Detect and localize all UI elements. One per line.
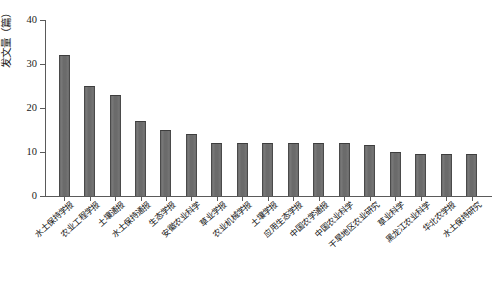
bar <box>288 143 299 196</box>
bar-fill <box>188 135 195 196</box>
bar <box>211 143 222 196</box>
x-tick-mark <box>64 197 65 201</box>
x-tick-mark <box>90 197 91 201</box>
bar-fill <box>392 153 399 196</box>
bar <box>262 143 273 196</box>
bar-fill <box>112 96 119 196</box>
bar <box>364 145 375 196</box>
bar-fill <box>417 155 424 196</box>
x-tick-mark <box>166 197 167 201</box>
bar-fill <box>137 122 144 196</box>
bar <box>313 143 324 196</box>
x-tick-mark <box>242 197 243 201</box>
bar <box>59 55 70 196</box>
bar <box>415 154 426 196</box>
bar <box>339 143 350 196</box>
bar-fill <box>264 144 271 196</box>
bar-fill <box>366 146 373 196</box>
y-axis-title: 发文量（篇） <box>0 0 13 88</box>
bar-fill <box>61 56 68 196</box>
x-tick-mark <box>472 197 473 201</box>
bar-fill <box>213 144 220 196</box>
x-tick-mark <box>115 197 116 201</box>
bar <box>110 95 121 196</box>
bar-fill <box>86 87 93 196</box>
bar <box>237 143 248 196</box>
y-tick-mark <box>40 196 45 197</box>
bar <box>390 152 401 196</box>
bar <box>84 86 95 196</box>
bar-fill <box>341 144 348 196</box>
bar-fill <box>162 131 169 196</box>
x-tick-mark <box>191 197 192 201</box>
x-tick-mark <box>293 197 294 201</box>
bar <box>160 130 171 196</box>
bar <box>186 134 197 196</box>
x-tick-mark <box>446 197 447 201</box>
bar-fill <box>290 144 297 196</box>
x-tick-mark <box>370 197 371 201</box>
bar <box>135 121 146 196</box>
bar <box>441 154 452 196</box>
x-tick-mark <box>344 197 345 201</box>
y-tick-label: 40 <box>27 13 38 26</box>
bar <box>466 154 477 196</box>
y-tick-label: 30 <box>27 57 38 70</box>
x-tick-mark <box>141 197 142 201</box>
y-tick-label: 10 <box>27 145 38 158</box>
y-tick-label: 0 <box>32 189 37 202</box>
bar-fill <box>468 155 475 196</box>
x-tick-mark <box>395 197 396 201</box>
bar-fill <box>443 155 450 196</box>
y-tick-label: 20 <box>27 101 38 114</box>
x-tick-mark <box>319 197 320 201</box>
bar-fill <box>315 144 322 196</box>
plot-area <box>45 20 492 196</box>
x-tick-mark <box>268 197 269 201</box>
x-tick-mark <box>217 197 218 201</box>
bar-chart-figure: 发文量（篇） 010203040 水土保持学报农业工程学报土壤通报水土保持通报生… <box>0 0 498 282</box>
x-tick-mark <box>421 197 422 201</box>
y-tick: 0 <box>45 196 46 197</box>
bar-fill <box>239 144 246 196</box>
